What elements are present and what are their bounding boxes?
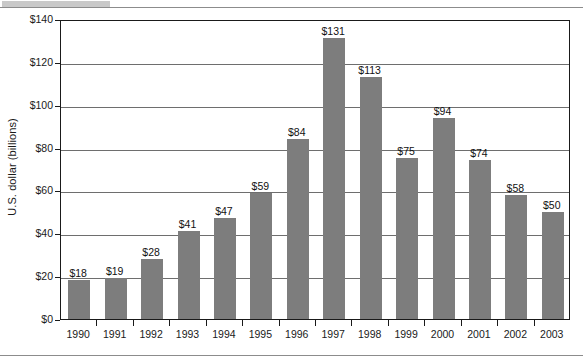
bar-value-label: $113 xyxy=(345,64,395,76)
gridline xyxy=(61,107,569,108)
y-tick-label: $80 xyxy=(5,142,53,154)
x-tick-mark xyxy=(351,320,352,326)
y-tick-label: $120 xyxy=(5,56,53,68)
bar-value-label: $75 xyxy=(381,145,431,157)
bar-value-label: $94 xyxy=(418,105,468,117)
bar-chart-figure: U.S. dollar (billions) $0$20$40$60$80$10… xyxy=(0,0,587,363)
bar xyxy=(505,195,527,319)
bar xyxy=(287,139,309,319)
x-tick-mark xyxy=(424,320,425,326)
bar xyxy=(68,280,90,319)
x-tick-label: 2003 xyxy=(527,328,577,340)
bar xyxy=(542,212,564,319)
x-tick-mark xyxy=(497,320,498,326)
gridline xyxy=(61,278,569,279)
bar xyxy=(360,77,382,319)
y-tick-label: $140 xyxy=(5,13,53,25)
bar xyxy=(433,118,455,319)
bar xyxy=(469,160,491,319)
top-divider-rule xyxy=(0,7,583,8)
x-tick-mark xyxy=(534,320,535,326)
bar xyxy=(323,38,345,319)
bar-value-label: $58 xyxy=(490,182,540,194)
x-tick-mark xyxy=(133,320,134,326)
bar-value-label: $19 xyxy=(90,265,140,277)
bar xyxy=(178,231,200,319)
bar-value-label: $28 xyxy=(126,246,176,258)
bar-value-label: $59 xyxy=(235,180,285,192)
bar xyxy=(250,193,272,319)
x-tick-mark xyxy=(169,320,170,326)
bar-value-label: $41 xyxy=(163,218,213,230)
x-tick-mark xyxy=(279,320,280,326)
y-tick-label: $20 xyxy=(5,270,53,282)
x-tick-mark xyxy=(315,320,316,326)
x-tick-mark xyxy=(96,320,97,326)
bar-value-label: $84 xyxy=(272,126,322,138)
y-tick-label: $40 xyxy=(5,227,53,239)
gridline xyxy=(61,235,569,236)
bar-value-label: $74 xyxy=(454,147,504,159)
x-tick-mark xyxy=(242,320,243,326)
y-tick-label: $60 xyxy=(5,184,53,196)
bar xyxy=(105,278,127,319)
bottom-divider-rule xyxy=(0,355,583,356)
y-tick-label: $0 xyxy=(5,313,53,325)
bar xyxy=(214,218,236,319)
y-tick-label: $100 xyxy=(5,99,53,111)
x-tick-mark xyxy=(388,320,389,326)
bar xyxy=(396,158,418,319)
bar xyxy=(141,259,163,319)
x-tick-mark xyxy=(461,320,462,326)
y-tick-mark xyxy=(55,320,60,321)
x-tick-mark xyxy=(206,320,207,326)
bar-value-label: $47 xyxy=(199,205,249,217)
gridline xyxy=(61,64,569,65)
bar-value-label: $131 xyxy=(308,25,358,37)
bar-value-label: $50 xyxy=(527,199,577,211)
